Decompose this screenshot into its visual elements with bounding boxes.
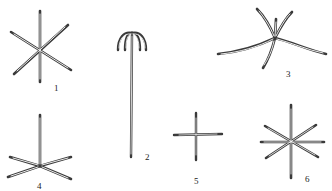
specimen-5: 5 [174,113,222,186]
specimen-3-label: 3 [286,69,291,79]
specimen-5-label: 5 [194,176,199,186]
specimen-4-label: 4 [37,181,42,191]
specimen-1-label: 1 [54,83,59,93]
specimen-3: 3 [218,9,326,79]
spicule-figure-plate: 1 2 [0,0,332,191]
specimen-2: 2 [118,33,150,162]
specimen-6: 6 [261,105,324,184]
specimen-2-label: 2 [145,152,150,162]
specimen-6-label: 6 [305,174,310,184]
specimen-4: 4 [8,115,71,191]
specimen-1: 1 [11,11,71,93]
